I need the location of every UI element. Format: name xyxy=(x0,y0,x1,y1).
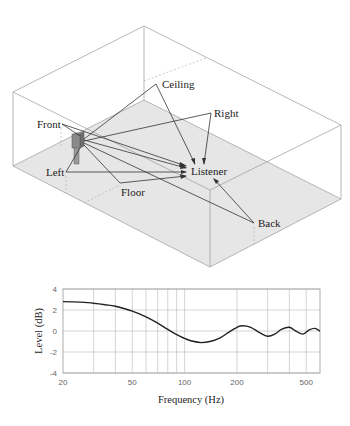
y-tick-label: 0 xyxy=(53,327,58,336)
label-left: Left xyxy=(46,166,64,178)
x-tick-label: 100 xyxy=(178,378,192,387)
speaker-stand xyxy=(74,147,79,164)
speaker-cabinet-side xyxy=(80,132,84,148)
x-tick-label: 200 xyxy=(230,378,244,387)
y-tick-label: 2 xyxy=(53,306,58,315)
x-tick-labels: 2050100200500 xyxy=(59,378,314,387)
label-right: Right xyxy=(214,107,238,119)
x-tick-label: 50 xyxy=(128,378,137,387)
figure: Ceiling Right Front Left Floor Listener … xyxy=(0,0,350,426)
room-diagram: Ceiling Right Front Left Floor Listener … xyxy=(13,26,341,267)
x-tick-label: 20 xyxy=(59,378,68,387)
y-tick-label: 4 xyxy=(53,285,58,294)
label-listener: Listener xyxy=(191,165,227,177)
y-tick-label: -2 xyxy=(50,348,58,357)
label-floor: Floor xyxy=(121,186,145,198)
speaker-cabinet-front xyxy=(72,134,80,148)
label-ceiling: Ceiling xyxy=(162,78,195,90)
y-axis-title: Level (dB) xyxy=(33,308,45,354)
x-axis-title: Frequency (Hz) xyxy=(158,394,225,406)
y-tick-labels: 420-2-4 xyxy=(50,285,58,378)
chart-grid xyxy=(63,289,320,373)
y-tick-label: -4 xyxy=(50,369,58,378)
frequency-response-chart: 420-2-4 2050100200500 Level (dB) Frequen… xyxy=(33,285,320,406)
label-back: Back xyxy=(258,217,281,229)
x-tick-label: 500 xyxy=(300,378,314,387)
room-floor xyxy=(13,100,341,267)
level-curve xyxy=(63,302,320,343)
label-front: Front xyxy=(37,118,61,130)
